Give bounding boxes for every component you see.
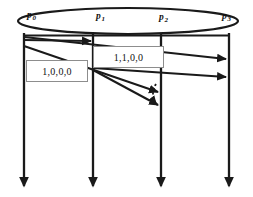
- process-label-p1: p1: [96, 12, 105, 23]
- process-label-p2-subscript: 2: [164, 16, 168, 24]
- vector-timestamp-value-p1: 1,1,0,0: [114, 52, 144, 63]
- process-label-p1-subscript: 1: [101, 15, 105, 23]
- vector-timestamp-value-p0: 1,0,0,0: [42, 66, 72, 77]
- process-label-p2: p2: [159, 13, 168, 24]
- process-label-p0: p0: [27, 11, 36, 22]
- process-label-p3-subscript: 3: [227, 15, 231, 23]
- message-arrow-p1-to-p2: [93, 70, 158, 105]
- vector-timestamp-box-p0: 1,0,0,0: [26, 60, 88, 82]
- process-timeline-diagram: p0 p1 p2 p3 1,0,0,0 1,1,0,0: [0, 0, 253, 197]
- diagram-canvas: [0, 0, 253, 197]
- process-label-p3: p3: [222, 12, 231, 23]
- group-ellipse: [18, 8, 238, 34]
- vector-timestamp-box-p1: 1,1,0,0: [93, 46, 164, 68]
- message-arrow-dashed-internal: [153, 84, 156, 103]
- process-label-p0-subscript: 0: [32, 14, 36, 22]
